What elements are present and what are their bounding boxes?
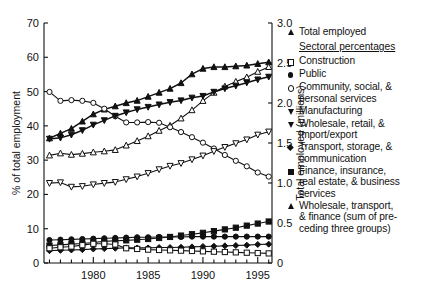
data-point (211, 249, 216, 254)
data-point (47, 89, 52, 94)
data-point (156, 234, 161, 239)
data-point (266, 174, 271, 179)
data-point (222, 234, 227, 239)
chart-legend: Total employed Sectoral percentages Cons… (286, 26, 435, 235)
data-point (222, 227, 227, 232)
legend-item-construction: Construction (286, 55, 435, 67)
data-point (222, 249, 227, 254)
data-point (156, 120, 161, 125)
data-point (58, 98, 63, 103)
data-point (211, 243, 217, 249)
data-point (47, 237, 52, 242)
legend-item-total-employed: Total employed (286, 26, 435, 38)
data-point (255, 170, 260, 175)
data-point (233, 225, 238, 230)
data-point (80, 98, 85, 103)
up-triangle-open-icon (286, 200, 299, 212)
data-point (178, 248, 183, 253)
data-point (167, 125, 172, 130)
data-point (200, 234, 205, 239)
data-point (189, 248, 194, 253)
down-triangle-filled-icon (286, 105, 299, 117)
data-point (69, 237, 74, 242)
legend-item-transport-storage-communication: Transport, storage, & communication (286, 141, 435, 164)
y-tick-label: 10 (27, 223, 39, 235)
series-6 (47, 234, 271, 243)
y-tick-label: 60 (27, 51, 39, 63)
x-tick-label: 1990 (191, 269, 215, 281)
data-point (244, 234, 249, 239)
diamond-filled-icon (286, 141, 299, 153)
data-point (47, 246, 52, 251)
data-point (255, 68, 261, 74)
legend-item-community-social-personal-services: Community, social, & personal services (286, 81, 435, 104)
data-point (189, 135, 194, 140)
data-point (233, 243, 239, 249)
data-point (58, 245, 63, 250)
y-tick-label: 40 (27, 120, 39, 132)
legend-label: Community, social, & personal services (299, 81, 392, 104)
x-tick-label: 1985 (136, 269, 160, 281)
data-point (167, 248, 172, 253)
data-point (266, 234, 271, 239)
data-point (178, 115, 184, 121)
chart-figure: 01020304050607000.51.01.52.02.53.0198019… (0, 0, 435, 294)
legend-item-finance-insurance-real-estate: Finance, insurance, real estate, & busin… (286, 165, 435, 199)
square-open-icon (286, 55, 299, 67)
series-1 (46, 64, 271, 158)
data-point (200, 249, 205, 254)
legend-label: Public (299, 68, 326, 79)
data-point (156, 127, 162, 133)
data-point (58, 237, 63, 242)
up-triangle-filled-icon (286, 26, 299, 38)
x-tick-label: 1980 (81, 269, 105, 281)
data-point (178, 129, 183, 134)
data-point (135, 235, 140, 240)
legend-item-wholesale-transport-finance-sum: Wholesale, transport, & finance (sum of … (286, 200, 435, 234)
data-point (145, 133, 151, 139)
data-point (266, 251, 271, 256)
legend-label: Construction (299, 55, 355, 66)
y-tick-label: 0 (33, 257, 39, 269)
y2-tick-label: 0 (277, 257, 283, 269)
legend-label: Wholesale, retail, & import/export (299, 118, 385, 141)
data-point (80, 243, 85, 248)
data-point (255, 132, 261, 138)
data-point (134, 138, 140, 144)
data-point (244, 164, 249, 169)
data-point (102, 236, 107, 241)
data-point (91, 100, 96, 105)
data-point (244, 242, 250, 248)
data-point (167, 234, 172, 239)
data-point (102, 241, 107, 246)
data-point (211, 234, 216, 239)
data-point (68, 125, 74, 131)
circle-filled-icon (286, 68, 299, 80)
data-point (255, 234, 260, 239)
data-point (255, 241, 261, 247)
y-tick-label: 50 (27, 86, 39, 98)
data-point (178, 234, 183, 239)
y-tick-label: 20 (27, 188, 39, 200)
y-tick-label: 30 (27, 154, 39, 166)
legend-label: Finance, insurance, real estate, & busin… (299, 165, 400, 199)
data-point (102, 106, 107, 111)
x-tick-label: 1995 (246, 269, 270, 281)
down-triangle-open-icon (286, 118, 299, 130)
data-point (69, 244, 74, 249)
data-point (79, 118, 85, 124)
legend-label: Wholesale, transport, & finance (sum of … (299, 200, 397, 234)
data-point (91, 241, 96, 246)
series-layer (46, 59, 271, 256)
data-point (244, 223, 249, 228)
data-point (57, 150, 63, 156)
data-point (266, 219, 271, 224)
legend-section-header: Sectoral percentages (299, 41, 435, 52)
data-point (266, 241, 272, 247)
data-point (233, 234, 238, 239)
circle-open-icon (286, 81, 299, 93)
data-point (135, 120, 140, 125)
data-point (244, 74, 250, 80)
legend-item-public: Public (286, 68, 435, 80)
axis-labels-layer: 01020304050607000.51.01.52.02.53.0198019… (10, 17, 306, 281)
